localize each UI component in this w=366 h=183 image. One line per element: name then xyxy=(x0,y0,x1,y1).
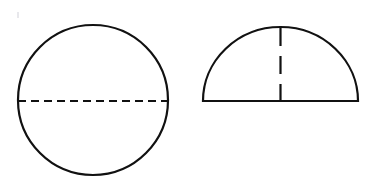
circle-shape xyxy=(18,25,168,175)
scan-speck-artifact xyxy=(17,12,19,18)
figure-canvas xyxy=(0,0,366,183)
geometry-figure xyxy=(0,0,366,183)
circle-outline xyxy=(18,25,168,175)
semicircle-shape xyxy=(203,27,358,101)
